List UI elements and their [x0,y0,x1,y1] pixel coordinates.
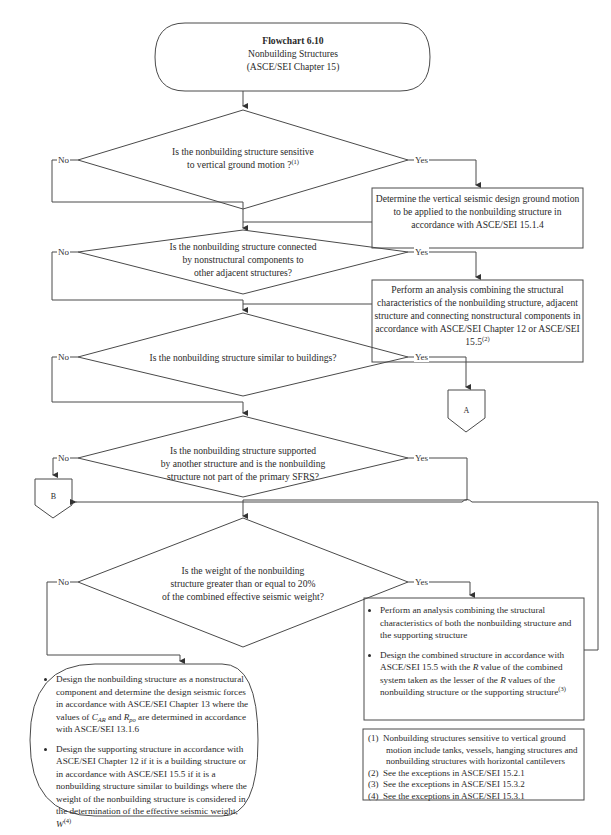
decision-2: Is the nonbuilding structure connected b… [120,240,366,279]
process-2-text: Perform an analysis combining the struct… [374,283,581,348]
process-3-bullet-2: Design the combined structure in accorda… [380,649,581,699]
decision-4: Is the nonbuilding structure supported b… [120,444,366,483]
decision-2-line1: Is the nonbuilding structure connected [120,240,366,253]
footnote-ref-1: (1) [291,158,299,165]
decision-5-yes-label: Yes [414,577,429,587]
connector-a[interactable]: A [448,404,485,417]
decision-3-yes-label: Yes [414,352,429,362]
decision-4-yes-label: Yes [414,453,429,463]
decision-2-yes-label: Yes [414,247,429,257]
process-3-bullet-1: Perform an analysis combining the struct… [380,604,581,642]
decision-5-line3: of the combined effective seismic weight… [120,590,366,603]
end-terminator: Design the nonbuilding structure as a no… [44,673,250,835]
decision-1-line2: to vertical ground motion ? [187,159,291,170]
process-3: Perform an analysis combining the struct… [368,604,581,706]
decision-3-no-label: No [57,352,70,362]
footnote-2: (2) See the exceptions in ASCE/SEI 15.2.… [368,768,581,780]
decision-4-no-label: No [57,453,70,463]
footnotes: (1) Nonbuilding structures sensitive to … [368,733,581,802]
footnote-4: (4) See the exceptions in ASCE/SEI 15.3.… [368,791,581,803]
footnote-1: (1) Nonbuilding structures sensitive to … [368,733,581,768]
footnote-ref-4: (4) [64,817,72,824]
decision-3: Is the nonbuilding structure similar to … [110,351,376,364]
decision-4-line2: by another structure and is the nonbuild… [120,457,366,470]
decision-1-no-label: No [57,155,70,165]
end-bullet-2: Design the supporting structure in accor… [56,743,250,831]
decision-2-no-label: No [57,247,70,257]
decision-1-line1: Is the nonbuilding structure sensitive [120,145,366,158]
decision-5-line2: structure greater than or equal to 20% [120,577,366,590]
start-terminator: Flowchart 6.10 Nonbuilding Structures (A… [160,34,426,73]
footnote-ref-3: (3) [558,685,566,692]
process-2-body: Perform an analysis combining the struct… [375,284,581,347]
decision-5: Is the weight of the nonbuilding structu… [120,564,366,603]
flowchart-subtitle: Nonbuilding Structures [160,47,426,60]
decision-5-line1: Is the weight of the nonbuilding [120,564,366,577]
decision-2-line3: other adjacent structures? [120,266,366,279]
decision-3-line1: Is the nonbuilding structure similar to … [110,351,376,364]
footnote-3: (3) See the exceptions in ASCE/SEI 15.3.… [368,779,581,791]
footnote-ref-2: (2) [482,335,490,342]
connector-b[interactable]: B [35,490,72,503]
decision-1: Is the nonbuilding structure sensitive t… [120,145,366,171]
process-1-text: Determine the vertical seismic design gr… [375,192,580,231]
flowchart-reference: (ASCE/SEI Chapter 15) [160,60,426,73]
flowchart-title: Flowchart 6.10 [160,34,426,47]
decision-4-line1: Is the nonbuilding structure supported [120,444,366,457]
decision-5-no-label: No [57,577,70,587]
decision-1-yes-label: Yes [414,155,429,165]
decision-2-line2: by nonstructural components to [120,253,366,266]
flowchart-canvas: Flowchart 6.10 Nonbuilding Structures (A… [0,0,611,835]
decision-4-line3: structure not part of the primary SFRS? [120,470,366,483]
end-bullet-1: Design the nonbuilding structure as a no… [56,673,250,736]
